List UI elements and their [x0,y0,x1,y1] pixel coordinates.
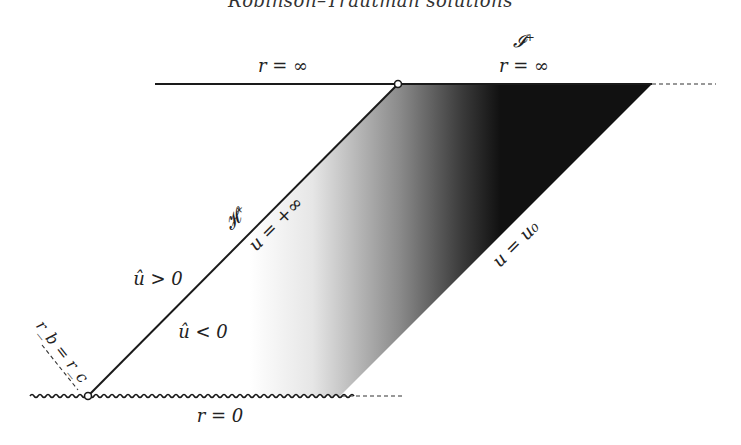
label-scri-plus: 𝓘⁺ [513,30,535,51]
bottom-endpoint-circle [85,393,92,400]
label-r-zero: r = 0 [197,405,244,426]
top-endpoint-circle [395,81,402,88]
shaded-region [88,84,652,396]
label-horizon: 𝓗⁺ [219,201,252,234]
penrose-diagram: r = ∞ 𝓘⁺ r = ∞ 𝓗⁺ u = +∞ u = u₀ û > 0 û … [0,0,741,445]
label-r-infinity-right: r = ∞ [499,55,549,76]
label-uhat-negative: û < 0 [178,321,228,342]
label-r-infinity-left: r = ∞ [258,55,308,76]
label-uhat-positive: û > 0 [133,268,183,289]
label-rb-equals-rc: r_b = r_c [32,317,93,387]
